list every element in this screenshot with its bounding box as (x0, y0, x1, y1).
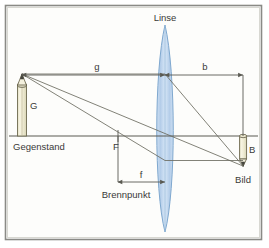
lens-imaging-diagram: g b f Linse G Gegenstand F B Bild Brennp… (0, 0, 269, 248)
object-pencil-group (17, 74, 26, 136)
object-height-label: G (30, 100, 37, 111)
image-pencil-body (240, 136, 247, 159)
figure-border (6, 6, 262, 240)
image-label: Bild (235, 174, 251, 185)
lens-label: Linse (154, 12, 177, 23)
f-label: f (140, 169, 143, 180)
g-label: g (94, 61, 99, 72)
object-label: Gegenstand (13, 141, 65, 152)
focal-point-label: F (113, 141, 119, 152)
image-height-label: B (249, 144, 255, 155)
focal-point-name-label: Brennpunkt (102, 189, 151, 200)
optics-diagram-figure: g b f Linse G Gegenstand F B Bild Brennp… (0, 0, 269, 248)
image-pencil-group (240, 134, 247, 166)
b-label: b (202, 61, 207, 72)
